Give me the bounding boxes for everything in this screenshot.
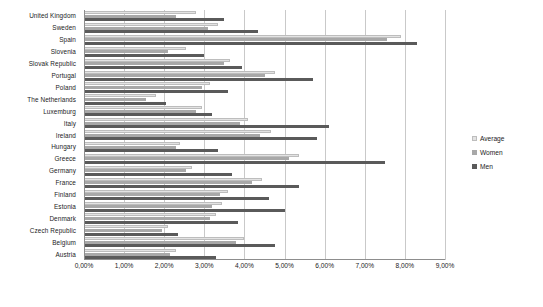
y-tick-label-ireland: Ireland [0,129,80,141]
bar-group [84,70,445,82]
x-tick-label: 4,00% [235,262,254,269]
x-tick-label: 7,00% [355,262,374,269]
bar-men [84,137,317,140]
y-tick-label-sweden: Sweden [0,22,80,34]
y-tick-label-estonia: Estonia [0,201,80,213]
bar-group [84,212,445,224]
legend-label: Men [480,163,493,170]
bar-men [84,173,232,176]
y-axis-category-labels: United KingdomSwedenSpainSloveniaSlovak … [0,10,80,260]
bar-group [84,189,445,201]
legend-label: Average [480,135,504,142]
bar-men [84,18,224,21]
x-tick-label: 0,00% [75,262,94,269]
bar-women [84,181,252,184]
bar-women [84,62,224,65]
y-tick-label-slovenia: Slovenia [0,46,80,58]
bar-women [84,27,208,30]
bar-group [84,201,445,213]
y-tick-label-belgium: Belgium [0,236,80,248]
bar-women [84,110,196,113]
gridline [445,10,446,260]
y-tick-label-greece: Greece [0,153,80,165]
x-tick-label: 5,00% [275,262,294,269]
bar-average [84,118,248,121]
legend-item-women[interactable]: Women [472,145,538,159]
bar-average [84,225,168,228]
bar-group [84,224,445,236]
y-tick-label-france: France [0,177,80,189]
legend-label: Women [480,149,503,156]
chart-screenshot: United KingdomSwedenSpainSloveniaSlovak … [0,0,543,307]
bar-women [84,98,146,101]
bar-men [84,197,269,200]
bar-women [84,169,186,172]
bar-group [84,117,445,129]
y-tick-label-spain: Spain [0,34,80,46]
bar-women [84,15,176,18]
y-tick-label-italy: Italy [0,117,80,129]
y-tick-label-finland: Finland [0,189,80,201]
bar-men [84,54,204,57]
bar-average [84,213,216,216]
bar-men [84,185,299,188]
bar-men [84,149,218,152]
bar-average [84,94,156,97]
y-axis-line [84,10,85,260]
y-tick-label-denmark: Denmark [0,212,80,224]
bar-average [84,82,210,85]
bar-women [84,50,168,53]
y-tick-label-poland: Poland [0,81,80,93]
bar-average [84,249,176,252]
y-tick-label-portugal: Portugal [0,70,80,82]
legend-swatch-icon [472,164,477,169]
legend-swatch-icon [472,150,477,155]
bar-women [84,241,236,244]
bar-women [84,229,162,232]
y-tick-label-united-kingdom: United Kingdom [0,10,80,22]
bar-group [84,22,445,34]
bar-average [84,71,275,74]
bar-men [84,244,275,247]
legend-item-men[interactable]: Men [472,159,538,173]
bar-women [84,193,220,196]
y-tick-label-austria: Austria [0,248,80,260]
bar-men [84,102,166,105]
bar-men [84,42,417,45]
bar-average [84,178,262,181]
x-tick-label: 2,00% [155,262,174,269]
bar-average [84,35,401,38]
x-tick-label: 3,00% [195,262,214,269]
bar-men [84,125,329,128]
x-tick-label: 6,00% [315,262,334,269]
bar-men [84,30,258,33]
bar-average [84,47,186,50]
bar-rows [84,10,445,260]
bar-average [84,59,230,62]
bar-women [84,146,176,149]
bar-group [84,46,445,58]
bar-women [84,205,212,208]
bar-group [84,34,445,46]
bar-average [84,23,218,26]
bar-women [84,74,265,77]
bar-men [84,78,313,81]
bar-men [84,209,285,212]
x-axis-line [84,259,445,260]
y-tick-label-hungary: Hungary [0,141,80,153]
bar-men [84,66,242,69]
legend-item-average[interactable]: Average [472,131,538,145]
y-tick-label-slovak-republic: Slovak Republic [0,58,80,70]
bar-average [84,130,271,133]
bar-average [84,142,180,145]
bar-average [84,190,228,193]
bar-group [84,10,445,22]
bar-group [84,153,445,165]
bar-men [84,113,212,116]
bar-men [84,161,385,164]
bar-men [84,90,228,93]
bar-group [84,165,445,177]
x-tick-label: 8,00% [396,262,415,269]
bar-women [84,38,387,41]
bar-men [84,221,238,224]
